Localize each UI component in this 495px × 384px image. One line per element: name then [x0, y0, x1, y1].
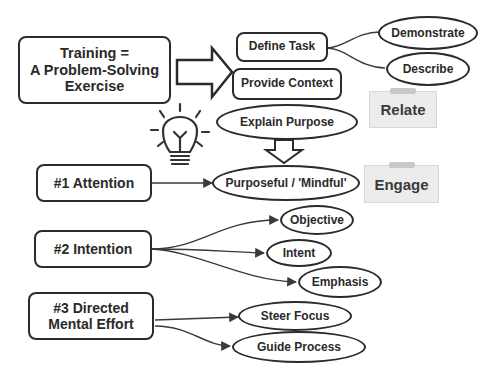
note-relate: Relate [369, 91, 437, 128]
note-engage-label: Engage [374, 176, 428, 193]
step-explain-purpose: Explain Purpose [216, 104, 358, 140]
node-guide-process: Guide Process [232, 331, 366, 363]
node-emphasis: Emphasis [298, 266, 382, 298]
main-line-1: Training = [60, 45, 129, 62]
block-arrow-right-icon [177, 48, 232, 97]
tape-decoration [389, 162, 415, 168]
node-purposeful-mindful: Purposeful / 'Mindful' [212, 165, 360, 201]
step-provide-context: Provide Context [232, 68, 342, 100]
main-line-2: A Problem-Solving [30, 62, 159, 79]
main-training-box: Training = A Problem-Solving Exercise [18, 36, 171, 104]
main-line-3: Exercise [65, 78, 125, 95]
lightbulb-icon [151, 104, 209, 164]
step-define-task: Define Task [236, 32, 328, 62]
tape-decoration [390, 88, 416, 94]
node-objective: Objective [280, 205, 354, 235]
principle-3-line-2: Mental Effort [48, 316, 134, 332]
node-steer-focus: Steer Focus [238, 301, 352, 331]
principle-3-line-1: #3 Directed [53, 300, 128, 316]
diagram-canvas: Training = A Problem-Solving Exercise De… [0, 0, 495, 384]
node-intent: Intent [266, 239, 332, 267]
node-demonstrate: Demonstrate [378, 16, 478, 50]
principle-intention: #2 Intention [34, 230, 152, 268]
note-engage: Engage [364, 165, 439, 203]
note-relate-label: Relate [380, 101, 425, 118]
principle-attention: #1 Attention [36, 164, 152, 202]
principle-directed-mental-effort: #3 Directed Mental Effort [28, 292, 154, 340]
node-describe: Describe [386, 52, 470, 86]
block-arrow-down-icon [266, 140, 302, 163]
